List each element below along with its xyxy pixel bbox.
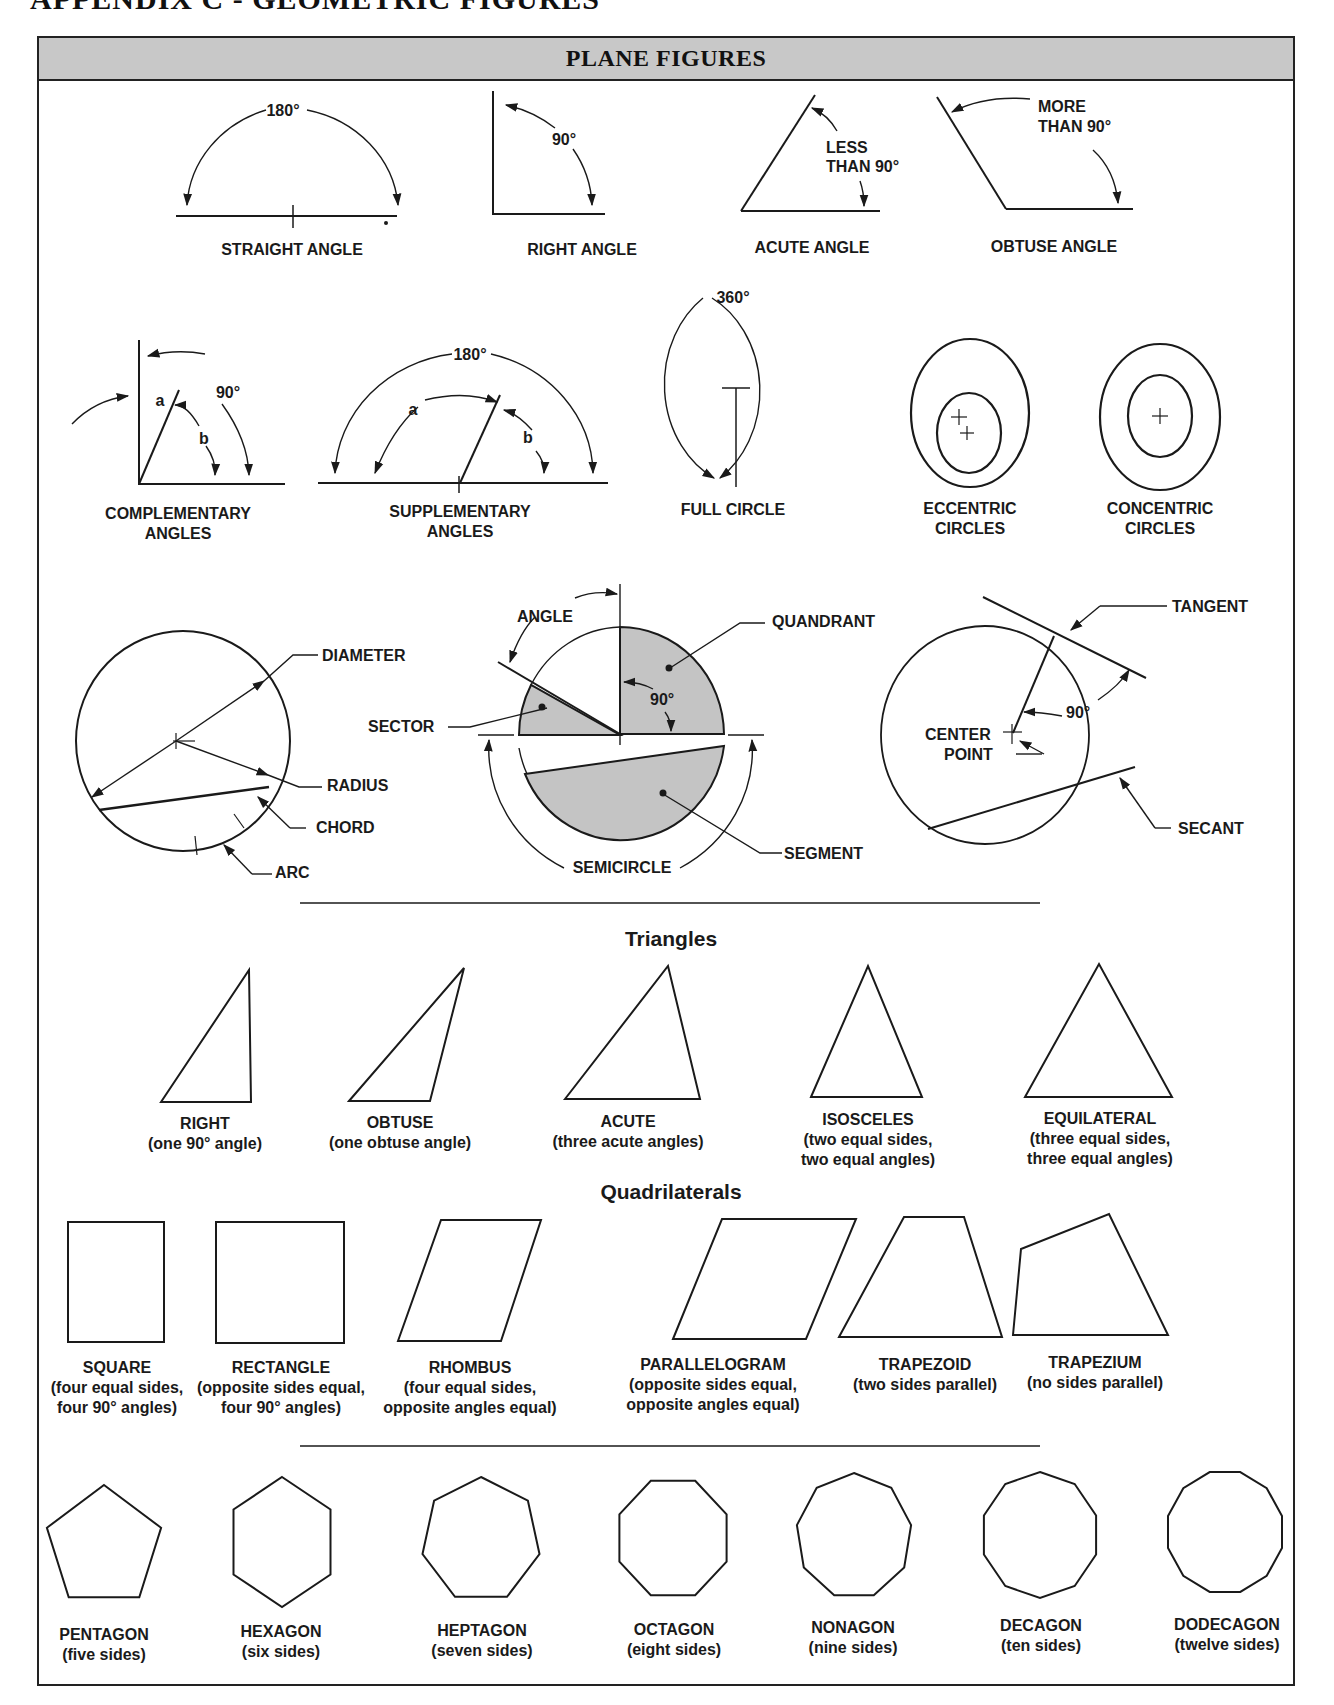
- polygon-shape-octagon: [619, 1481, 726, 1596]
- semicircle-label: SEMICIRCLE: [573, 858, 672, 878]
- polygon-shape-pentagon: [47, 1485, 161, 1597]
- center-point-line2: POINT: [944, 745, 993, 765]
- polygon-shape-decagon: [984, 1472, 1096, 1598]
- full-circle-measure: 360°: [716, 288, 749, 308]
- complementary-a: a: [156, 391, 165, 411]
- supplementary-angles-figure: [318, 354, 608, 493]
- tangent-angle-label: 90°: [1066, 703, 1090, 723]
- triangle-isosceles: ISOSCELES(two equal sides,two equal angl…: [801, 1110, 935, 1170]
- polygon-shape-hexagon: [234, 1477, 331, 1607]
- center-point-line1: CENTER: [925, 725, 991, 745]
- supplementary-b: b: [523, 428, 533, 448]
- tangent-label: TANGENT: [1172, 597, 1248, 617]
- full-circle-figure: [664, 298, 759, 487]
- acute-angle-measure-line2: THAN 90°: [826, 157, 899, 177]
- polygon-octagon: OCTAGON(eight sides): [627, 1620, 721, 1660]
- eccentric-label-line2: CIRCLES: [935, 519, 1005, 539]
- diameter-label: DIAMETER: [322, 646, 406, 666]
- quadrilaterals-row: [68, 1214, 1168, 1343]
- supplementary-label-line1: SUPPLEMENTARY: [389, 502, 530, 522]
- triangle-obtuse: OBTUSE(one obtuse angle): [329, 1113, 471, 1153]
- circle-regions-figure: [448, 584, 782, 868]
- quad-rhombus: RHOMBUS(four equal sides,opposite angles…: [383, 1358, 556, 1418]
- straight-angle-measure: 180°: [266, 101, 299, 121]
- straight-angle-figure: [176, 110, 398, 228]
- supplementary-a: a: [409, 400, 418, 420]
- polygon-shape-nonagon: [797, 1473, 911, 1595]
- complementary-b: b: [199, 429, 209, 449]
- figures-drawing: [0, 0, 1334, 1705]
- quadrant-angle-label: 90°: [650, 690, 674, 710]
- arc-label: ARC: [275, 863, 310, 883]
- complementary-label-line1: COMPLEMENTARY: [105, 504, 251, 524]
- quad-trapezoid: TRAPEZOID(two sides parallel): [853, 1355, 997, 1395]
- triangles-section-title: Triangles: [625, 927, 717, 951]
- obtuse-angle-measure-line2: THAN 90°: [1038, 117, 1111, 137]
- right-angle-label: RIGHT ANGLE: [527, 240, 637, 260]
- quad-rectangle: RECTANGLE(opposite sides equal,four 90° …: [197, 1358, 365, 1418]
- triangle-right: RIGHT(one 90° angle): [148, 1114, 262, 1154]
- quad-parallelogram: PARALLELOGRAM(opposite sides equal,oppos…: [626, 1355, 799, 1415]
- straight-angle-label: STRAIGHT ANGLE: [221, 240, 363, 260]
- tangent-secant-figure: [881, 597, 1171, 844]
- polygons-row: [47, 1472, 1282, 1607]
- radius-label: RADIUS: [327, 776, 388, 796]
- polygon-shape-dodecagon: [1168, 1472, 1282, 1592]
- acute-angle-label: ACUTE ANGLE: [755, 238, 870, 258]
- quadrilaterals-section-title: Quadrilaterals: [600, 1180, 741, 1204]
- angle-label: ANGLE: [517, 607, 573, 627]
- sector-label: SECTOR: [368, 717, 434, 737]
- concentric-label-line1: CONCENTRIC: [1107, 499, 1214, 519]
- concentric-label-line2: CIRCLES: [1125, 519, 1195, 539]
- right-angle-figure: [493, 91, 605, 215]
- quadrant-label: QUANDRANT: [772, 612, 875, 632]
- polygon-heptagon: HEPTAGON(seven sides): [431, 1621, 532, 1661]
- polygon-hexagon: HEXAGON(six sides): [241, 1622, 322, 1662]
- eccentric-label-line1: ECCENTRIC: [923, 499, 1016, 519]
- triangles-row: [161, 964, 1172, 1102]
- triangle-acute: ACUTE(three acute angles): [552, 1112, 703, 1152]
- eccentric-circles-figure: [911, 339, 1029, 487]
- polygon-shape-heptagon: [423, 1477, 540, 1597]
- obtuse-angle-measure-line1: MORE: [1038, 97, 1086, 117]
- circle-parts-figure: [76, 631, 322, 874]
- polygon-nonagon: NONAGON(nine sides): [809, 1618, 898, 1658]
- concentric-circles-figure: [1100, 344, 1220, 490]
- complementary-angles-figure: [72, 340, 285, 485]
- right-angle-measure: 90°: [552, 130, 576, 150]
- secant-label: SECANT: [1178, 819, 1244, 839]
- obtuse-angle-label: OBTUSE ANGLE: [991, 237, 1118, 257]
- segment-label: SEGMENT: [784, 844, 863, 864]
- polygon-dodecagon: DODECAGON(twelve sides): [1174, 1615, 1280, 1655]
- chord-label: CHORD: [316, 818, 375, 838]
- quad-square: SQUARE(four equal sides,four 90° angles): [51, 1358, 183, 1418]
- polygon-decagon: DECAGON(ten sides): [1000, 1616, 1082, 1656]
- supplementary-measure: 180°: [453, 345, 486, 365]
- triangle-equilateral: EQUILATERAL(three equal sides,three equa…: [1027, 1109, 1173, 1169]
- full-circle-label: FULL CIRCLE: [681, 500, 786, 520]
- obtuse-angle-figure: [937, 97, 1133, 209]
- acute-angle-measure-line1: LESS: [826, 138, 868, 158]
- complementary-measure: 90°: [216, 383, 240, 403]
- complementary-label-line2: ANGLES: [145, 524, 212, 544]
- quad-trapezium: TRAPEZIUM(no sides parallel): [1027, 1353, 1163, 1393]
- supplementary-label-line2: ANGLES: [427, 522, 494, 542]
- polygon-pentagon: PENTAGON(five sides): [59, 1625, 148, 1665]
